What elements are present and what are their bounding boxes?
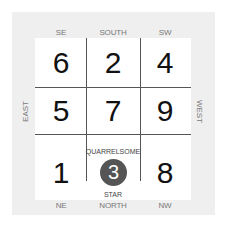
direction-west: WEST: [195, 100, 204, 123]
direction-south: SOUTH: [87, 28, 139, 37]
grid-line: [35, 134, 191, 135]
grid-cell-south: 2: [87, 48, 139, 78]
grid-cell-west: 9: [139, 96, 191, 126]
highlighted-star-badge: 3: [100, 159, 127, 186]
direction-ne: NE: [35, 201, 87, 210]
grid-line: [35, 87, 191, 88]
grid-cell-nw: 8: [139, 158, 191, 188]
direction-se: SE: [35, 28, 87, 37]
grid-cell-ne: 1: [35, 158, 87, 188]
grid-cell-se: 6: [35, 48, 87, 78]
grid-cell-sw: 4: [139, 48, 191, 78]
grid-cell-east: 5: [35, 96, 87, 126]
direction-sw: SW: [139, 28, 191, 37]
direction-north: NORTH: [87, 201, 139, 210]
direction-nw: NW: [139, 201, 191, 210]
direction-east: EAST: [21, 101, 30, 122]
grid-cell-center: 7: [87, 96, 139, 126]
quarrelsome-label: QUARRELSOME: [85, 148, 141, 155]
star-label: STAR: [85, 191, 141, 198]
